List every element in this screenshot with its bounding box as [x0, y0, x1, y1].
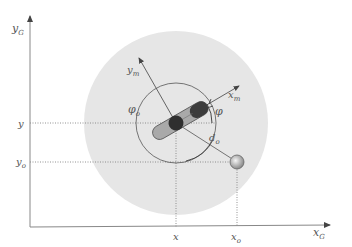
- x-tick-label: x: [173, 231, 179, 242]
- yG-label: yG: [11, 22, 24, 37]
- xo-tick-label: xo: [231, 231, 241, 245]
- y-tick-label: y: [17, 118, 24, 129]
- robot-obstacle-diagram: yG xG ym xm φ φo do y yo x xo: [0, 0, 352, 247]
- obstacle: [230, 155, 244, 169]
- phi-label: φ: [215, 105, 223, 118]
- xG-label: xG: [313, 226, 325, 241]
- yo-tick-label: yo: [15, 156, 26, 170]
- x-axis: [30, 225, 330, 227]
